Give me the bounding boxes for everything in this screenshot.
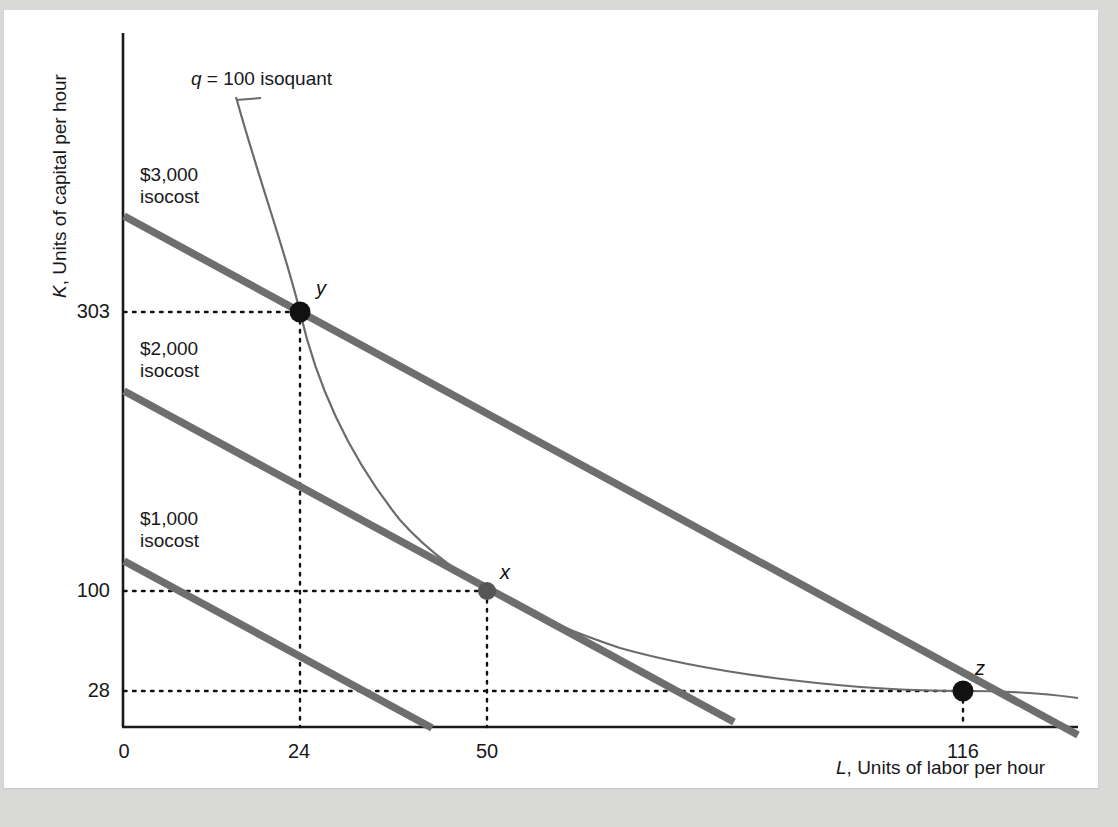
isocost-3000-line [124,216,1078,735]
isoquant-label-symbol: q [191,68,202,89]
isocost-1000-line [124,561,432,728]
x-tick-label-116: 116 [930,740,996,763]
isocost-3000-label: $3,000 isocost [140,164,199,209]
origin-label: 0 [104,740,144,763]
isocost-2000-line [124,391,734,722]
y-tick-label-28: 28 [42,679,110,702]
isocost-1000-label: $1,000 isocost [140,508,199,553]
point-label-z: z [975,657,985,680]
y-tick-label-303: 303 [42,300,110,323]
x-axis-title-symbol: L [836,757,847,778]
x-tick-label-50: 50 [456,740,518,763]
point-label-y: y [316,277,326,300]
y-tick-label-100: 100 [42,579,110,602]
data-point-x [478,582,496,600]
isoquant-isocost-figure: K, Units of capital per hour L, Units of… [0,0,1118,827]
isoquant-label: q = 100 isoquant [191,68,332,90]
isoquant-label-text: = 100 isoquant [202,68,332,89]
x-tick-label-24: 24 [268,740,330,763]
data-point-z [953,681,974,702]
isoquant-curve [236,97,1078,698]
point-label-x: x [500,561,510,584]
isocost-2000-label: $2,000 isocost [140,338,199,383]
figure-page: K, Units of capital per hour L, Units of… [0,0,1118,827]
isoquant-leader [236,98,261,100]
y-axis-title-symbol: K [49,285,70,298]
y-axis-title-text: , Units of capital per hour [49,74,70,285]
y-axis-title: K, Units of capital per hour [49,36,71,336]
data-point-y [290,302,311,323]
plot-canvas [0,0,1118,827]
